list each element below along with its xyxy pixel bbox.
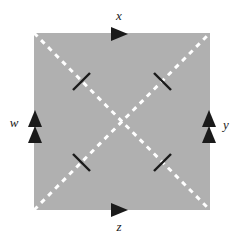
edge-label-left: w — [10, 115, 19, 130]
edge-label-top: x — [115, 8, 122, 23]
edge-label-right: y — [221, 117, 229, 132]
diagram-canvas: x y z w — [0, 0, 239, 244]
diagram-svg: x y z w — [0, 0, 239, 244]
edge-label-bottom: z — [115, 219, 121, 234]
